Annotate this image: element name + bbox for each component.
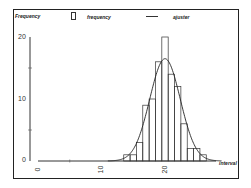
histogram-bar: [187, 149, 193, 161]
histogram-bar: [181, 124, 187, 161]
histogram-bar: [136, 142, 142, 161]
histogram-bar: [155, 62, 161, 161]
histogram-bar: [162, 37, 168, 161]
histogram-bar: [194, 149, 200, 161]
histogram-bar: [149, 99, 155, 161]
histogram-bar: [130, 155, 136, 161]
histogram-bar: [168, 74, 174, 161]
fitted-curve: [108, 59, 222, 161]
histogram-plot: [0, 0, 251, 188]
